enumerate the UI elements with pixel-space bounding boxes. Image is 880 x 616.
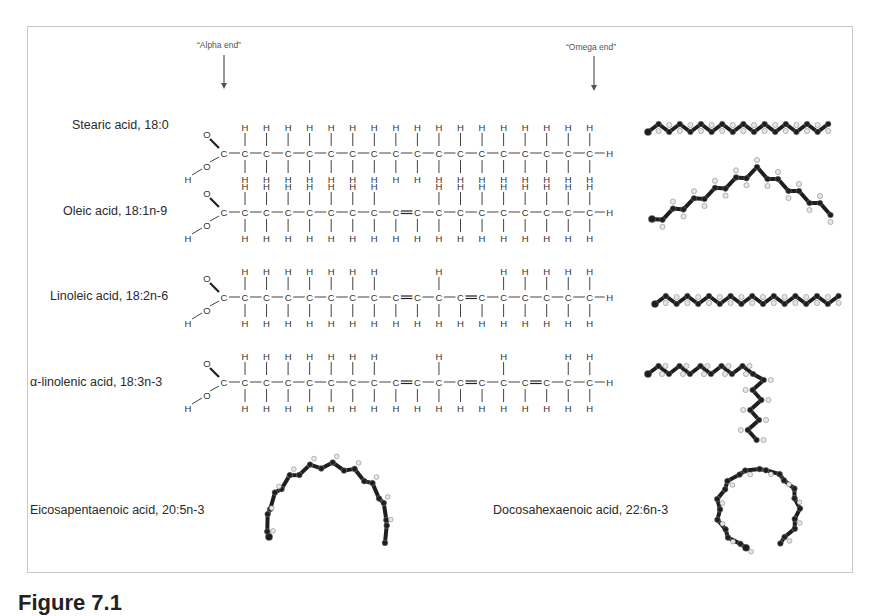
ball-and-stick-models (0, 0, 880, 601)
